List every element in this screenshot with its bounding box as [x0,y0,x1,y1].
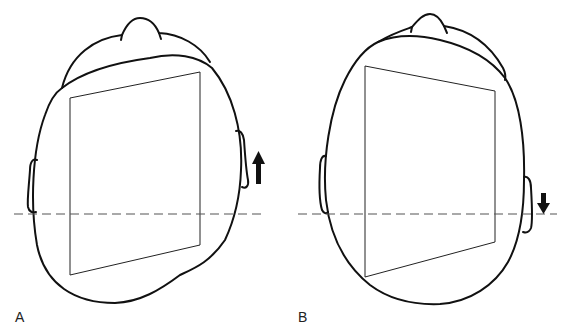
panel-b [298,14,557,304]
nose-b [411,26,447,33]
panel-a [14,18,265,303]
head-outline-a [33,55,241,303]
tilted-frame-a [70,72,200,275]
head-top-outline-a [62,18,210,88]
diagram-canvas [0,0,570,327]
nose-a [121,33,161,40]
panel-label-a: A [15,309,24,325]
head-outline-b [325,36,524,304]
tilted-frame-b [365,66,495,277]
arrow-down-icon [537,193,550,214]
arrow-up-icon [252,151,265,184]
panel-label-b: B [298,309,307,325]
head-top-outline-b [378,14,505,80]
